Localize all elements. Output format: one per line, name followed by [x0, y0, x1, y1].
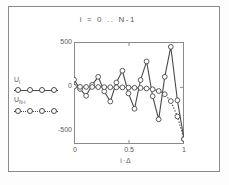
series-marker-0	[150, 94, 155, 99]
legend-label-u-n-minus-i: UN-i	[14, 96, 62, 106]
series-marker-1	[84, 85, 89, 90]
legend-marker-circle	[27, 87, 33, 93]
legend-marker-circle	[15, 108, 21, 114]
series-marker-0	[156, 117, 161, 122]
plot-screenshot: i = 0 .. N-1 Ui UN-i	[0, 0, 229, 185]
legend-entry-u-n-minus-i: UN-i	[14, 96, 62, 115]
series-marker-1	[102, 85, 107, 90]
legend-swatch-u-n-minus-i	[14, 107, 58, 116]
series-marker-0	[144, 59, 149, 64]
series-marker-1	[126, 85, 131, 90]
series-marker-0	[175, 98, 180, 103]
series-marker-0	[132, 106, 137, 111]
series-marker-0	[126, 91, 131, 96]
series-marker-1	[96, 85, 101, 90]
legend-marker-circle	[27, 108, 33, 114]
plot-canvas	[74, 42, 184, 144]
x-tick-label-1: 0.5	[118, 146, 140, 153]
series-marker-1	[120, 85, 125, 90]
legend-label-u-i-sub: i	[19, 79, 20, 85]
series-marker-1	[162, 92, 167, 97]
y-tick-label-1: 0	[46, 82, 72, 89]
series-marker-1	[150, 87, 155, 92]
page-title: i = 0 .. N-1	[48, 15, 168, 24]
series-marker-0	[162, 74, 167, 79]
legend-marker-circle	[51, 108, 57, 114]
x-axis-label: i·Δ	[96, 157, 156, 164]
series-marker-1	[144, 86, 149, 91]
plot-area	[74, 42, 184, 144]
series-marker-0	[114, 80, 119, 85]
series-marker-0	[120, 68, 125, 73]
series-marker-1	[156, 89, 161, 94]
series-marker-1	[74, 84, 76, 89]
series-marker-0	[96, 74, 101, 79]
series-marker-0	[74, 77, 76, 82]
series-marker-1	[108, 85, 113, 90]
legend-marker-circle	[15, 87, 21, 93]
legend-label-u-n-minus-i-sub: N-i	[19, 100, 25, 106]
series-marker-0	[138, 78, 143, 83]
series-marker-1	[168, 99, 173, 104]
legend-marker-circle	[39, 108, 45, 114]
x-tick-label-2: 1	[173, 146, 195, 153]
series-marker-1	[175, 114, 180, 119]
x-tick-label-0: 0	[64, 146, 86, 153]
series-marker-1	[182, 137, 184, 142]
y-tick-label-0: 500	[46, 38, 72, 45]
legend-marker-circle	[39, 87, 45, 93]
series-marker-0	[168, 44, 173, 49]
series-marker-1	[138, 86, 143, 91]
series-marker-1	[132, 85, 137, 90]
series-marker-0	[84, 93, 89, 98]
series-marker-0	[108, 99, 113, 104]
series-marker-1	[90, 85, 95, 90]
series-marker-1	[114, 85, 119, 90]
y-tick-label-2: -500	[46, 126, 72, 133]
series-marker-1	[78, 84, 83, 89]
